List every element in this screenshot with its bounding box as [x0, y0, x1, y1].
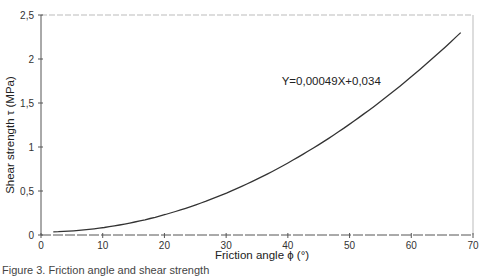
- x-tick-label: 0: [38, 240, 44, 251]
- fit-curve: [53, 33, 460, 232]
- y-axis-ticks: 00,511,522,5: [20, 10, 43, 241]
- y-axis-title: Shear strength τ (MPa): [4, 76, 16, 194]
- x-tick-label: 60: [406, 240, 418, 251]
- y-tick-label: 1: [28, 142, 34, 153]
- plot-frame: [41, 15, 473, 235]
- x-tick-label: 20: [159, 240, 171, 251]
- x-axis-title: Friction angle ϕ (°): [215, 249, 309, 261]
- x-tick-label: 10: [97, 240, 109, 251]
- equation-label: Y=0,00049X+0,034: [282, 75, 382, 87]
- x-tick-label: 50: [344, 240, 356, 251]
- y-tick-label: 2: [28, 54, 34, 65]
- y-tick-label: 1,5: [20, 98, 34, 109]
- x-tick-label: 70: [467, 240, 479, 251]
- figure-caption: Figure 3. Friction angle and shear stren…: [2, 264, 209, 276]
- y-tick-label: 0,5: [20, 186, 34, 197]
- y-tick-label: 0: [28, 230, 34, 241]
- y-tick-label: 2,5: [20, 10, 34, 21]
